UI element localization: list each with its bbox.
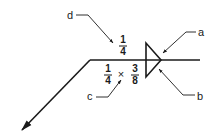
arrow-side-size: 1 4 × 3 8	[104, 63, 139, 86]
other-side-size-numerator: 1	[120, 34, 126, 45]
other-side-size: 1 4	[119, 34, 127, 57]
arrow-side-leg1-denominator: 4	[105, 75, 111, 86]
label-c: c	[87, 90, 93, 102]
callout-a: a	[163, 26, 205, 53]
label-a: a	[198, 26, 205, 38]
other-side-size-denominator: 4	[120, 46, 126, 57]
callout-d: d	[67, 9, 113, 43]
callout-b: b	[159, 69, 203, 102]
arrow-leader-line	[22, 60, 90, 130]
size-separator: ×	[118, 68, 124, 80]
callout-c: c	[87, 80, 121, 102]
label-d: d	[67, 9, 73, 21]
label-b: b	[197, 90, 203, 102]
arrow-side-leg2-denominator: 8	[132, 75, 138, 86]
welding-symbol-diagram: 1 4 1 4 × 3 8 a b c d	[0, 0, 218, 140]
arrow-side-leg2-numerator: 3	[132, 63, 138, 74]
arrow-side-leg1-numerator: 1	[105, 63, 111, 74]
